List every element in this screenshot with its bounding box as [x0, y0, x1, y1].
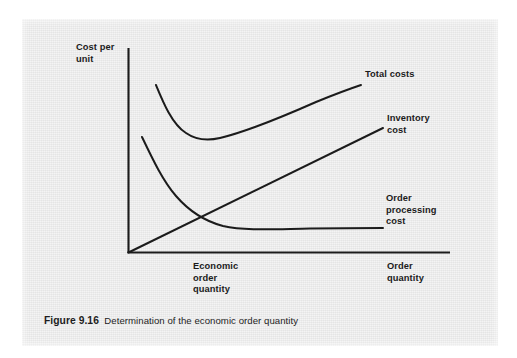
figure-caption-number: Figure 9.16: [44, 315, 99, 326]
series-label-inventory-cost: Inventory cost: [387, 113, 487, 136]
figure-caption-text: Determination of the economic order quan…: [104, 315, 298, 326]
series-label-order-processing-cost: Order processing cost: [386, 193, 486, 228]
figure-root: Cost per unit Total costs Inventory cost…: [0, 0, 517, 358]
total-costs-curve: [156, 85, 361, 140]
inventory-cost-line: [129, 128, 384, 253]
y-axis-label: Cost per unit: [76, 42, 138, 65]
x-axis-annotation-economic-order-quantity: Economic order quantity: [193, 261, 303, 296]
order-processing-cost-curve: [142, 137, 383, 229]
x-axis-label: Order quantity: [387, 261, 487, 284]
series-label-total-costs: Total costs: [365, 69, 465, 81]
figure-caption: Figure 9.16 Determination of the economi…: [44, 314, 474, 327]
